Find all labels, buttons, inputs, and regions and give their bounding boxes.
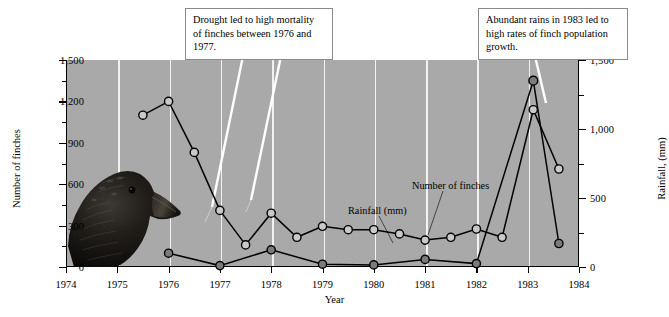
series-label-leaders	[379, 191, 443, 243]
series-label-finches: Number of finches	[412, 180, 489, 191]
datapoint-rainfall-1979	[318, 260, 326, 268]
datapoint-finches-1982-5	[498, 233, 506, 241]
datapoint-rainfall-1983-peak	[529, 76, 538, 85]
figure-finch-population-rainfall: 1,500 1,200 900 600 300 0 1,500 1,000 50…	[0, 0, 669, 317]
datapoint-finches-1977-5	[242, 241, 250, 249]
datapoint-finches-1983-peak	[529, 106, 537, 114]
callout-abundant-rains: Abundant rains in 1983 led to high rates…	[478, 8, 628, 60]
datapoint-finches-1977	[216, 206, 224, 214]
datapoint-finches-1978-5	[293, 233, 301, 241]
datapoint-rainfall-1978	[267, 246, 275, 254]
datapoint-rainfall-1977	[216, 262, 224, 270]
datapoint-finches-1983-5	[555, 165, 563, 173]
callout-drought: Drought led to high mortality of finches…	[185, 8, 333, 60]
datapoint-finches-1979	[318, 222, 326, 230]
datapoint-finches-1976-5	[190, 148, 198, 156]
datapoint-rainfall-1980	[370, 261, 378, 269]
leader-lines	[205, 56, 546, 222]
datapoint-rainfall-1976	[165, 249, 173, 257]
datapoint-finches-1978	[267, 209, 275, 217]
datapoint-finches-1981-5	[447, 233, 455, 241]
datapoint-finches-1976	[165, 97, 173, 105]
datapoint-rainfall-1981	[421, 255, 429, 263]
series-label-rainfall: Rainfall (mm)	[348, 205, 407, 216]
datapoint-finches-1979-5	[344, 226, 352, 234]
datapoint-finches-1975-5	[139, 111, 147, 119]
datapoint-finches-1980	[370, 226, 378, 234]
series-finches	[139, 97, 563, 249]
datapoint-rainfall-1983-5	[555, 239, 563, 247]
datapoint-rainfall-1982	[472, 260, 480, 268]
datapoint-finches-1981	[421, 236, 429, 244]
datapoint-finches-1982	[472, 225, 480, 233]
datapoint-finches-1980-5	[395, 230, 403, 238]
